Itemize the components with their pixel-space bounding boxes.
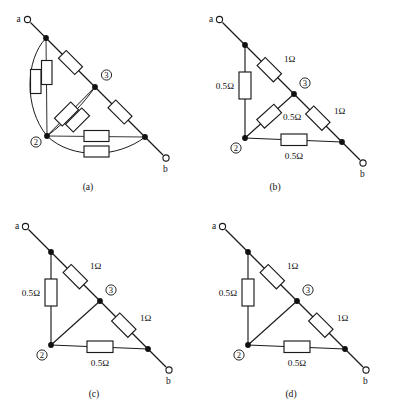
resistor-d-upper-diagonal-label: 1Ω [287, 261, 299, 271]
resistor-b-bottom-label: 0.5Ω [285, 151, 303, 161]
resistor-a-left-outer [31, 70, 42, 94]
terminal-b-label-panel-d: b [363, 376, 368, 386]
terminal-a-circle-panel-d [219, 223, 225, 229]
node3-label-panel-b: 3 [303, 78, 307, 88]
terminal-b-label-panel-c: b [166, 376, 171, 386]
junction-b-node3 [291, 91, 297, 97]
resistor-a-bottom-upper [84, 131, 109, 142]
junction-a-node2 [44, 133, 50, 139]
node2-label-panel-d: 2 [237, 350, 241, 360]
resistor-c-right-diagonal [112, 313, 136, 337]
node2-label-panel-c: 2 [40, 350, 44, 360]
resistor-c-upper-diagonal-label: 1Ω [90, 261, 102, 271]
resistor-c-right-diagonal-label: 1Ω [140, 313, 152, 323]
junction-a-node3 [92, 84, 98, 90]
junction-d-top [245, 249, 251, 255]
circuit-figure: a b [0, 0, 397, 411]
resistor-b-mid-diagonal [257, 104, 282, 128]
resistor-b-mid-diagonal-label: 0.5Ω [283, 112, 301, 122]
resistor-a-bottom-lower [84, 146, 109, 157]
junction-c-node2 [48, 342, 54, 348]
terminal-a-circle-panel-a [24, 16, 30, 22]
resistor-b-vertical-label: 0.5Ω [216, 81, 234, 91]
junction-d-node3 [294, 298, 300, 304]
panel-a: a b [17, 14, 170, 193]
resistor-a-right-diagonal [108, 100, 132, 124]
junction-b-top [242, 42, 248, 48]
terminal-b-label-panel-a: b [163, 164, 168, 174]
panel-b: a b 0.5Ω 1Ω 0.5Ω 1Ω 0.5Ω [209, 14, 366, 193]
caption-panel-c: (c) [89, 388, 100, 400]
panel-c: a b 0.5Ω 1Ω 1Ω 0.5Ω 3 2 (c) [15, 221, 172, 400]
terminal-a-label-panel-d: a [212, 221, 217, 231]
resistor-d-vertical [242, 279, 254, 306]
resistor-b-vertical [239, 72, 251, 99]
node2-label-panel-b: 2 [234, 143, 238, 153]
terminal-a-circle-panel-c [22, 223, 28, 229]
node3-label-panel-d: 3 [306, 285, 310, 295]
terminal-b-circle-panel-d [363, 367, 369, 373]
resistor-d-vertical-label: 0.5Ω [219, 288, 237, 298]
junction-c-top [48, 249, 54, 255]
junction-a-top [43, 35, 49, 41]
junction-c-right [145, 346, 151, 352]
resistor-b-bottom [281, 134, 307, 146]
node3-label-panel-c: 3 [109, 285, 113, 295]
plain-wire-d-mid-diagonal [248, 301, 297, 345]
junction-b-right [339, 139, 345, 145]
junction-d-right [342, 346, 348, 352]
resistor-b-right-diagonal-label: 1Ω [334, 106, 346, 116]
resistor-c-vertical [45, 279, 57, 306]
junction-d-node2 [245, 342, 251, 348]
terminal-a-circle-panel-b [216, 16, 222, 22]
terminal-a-label-panel-b: a [209, 14, 214, 24]
terminal-a-label-panel-c: a [15, 221, 20, 231]
terminal-b-circle-panel-b [360, 160, 366, 166]
plain-wire-c-mid-diagonal [51, 301, 100, 345]
resistor-d-right-diagonal-label: 1Ω [337, 313, 349, 323]
caption-panel-b: (b) [269, 181, 280, 193]
node3-label-panel-a: 3 [104, 70, 108, 80]
resistor-c-bottom [87, 341, 113, 353]
junction-b-node2 [242, 135, 248, 141]
resistor-d-bottom-label: 0.5Ω [288, 358, 306, 368]
terminal-b-label-panel-b: b [360, 169, 365, 179]
caption-panel-a: (a) [83, 181, 94, 193]
panel-d: a b 0.5Ω 1Ω 1Ω 0.5Ω 3 2 (d) [212, 221, 369, 400]
node2-label-panel-a: 2 [34, 137, 38, 147]
resistor-d-bottom [284, 341, 310, 353]
resistor-b-upper-diagonal-label: 1Ω [284, 54, 296, 64]
resistor-a-left-inner [42, 61, 53, 85]
resistor-a-upper-diagonal [58, 50, 82, 74]
terminal-b-circle-panel-c [166, 367, 172, 373]
terminal-b-circle-panel-a [163, 155, 169, 161]
terminal-a-label-panel-a: a [17, 14, 22, 24]
junction-a-right [142, 134, 148, 140]
resistor-c-vertical-label: 0.5Ω [22, 288, 40, 298]
resistor-c-bottom-label: 0.5Ω [91, 358, 109, 368]
junction-c-node3 [97, 298, 103, 304]
caption-panel-d: (d) [285, 388, 296, 400]
